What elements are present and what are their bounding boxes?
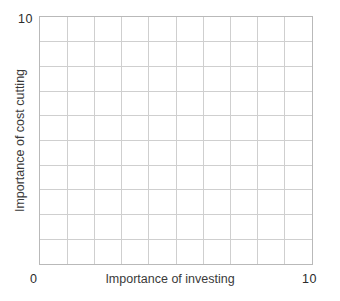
y-axis-title: Importance of cost cutting [14, 16, 30, 265]
plot-area[interactable] [39, 16, 313, 265]
chart-figure: 10 0 10 Importance of investing Importan… [0, 0, 340, 301]
grid-lines [40, 17, 312, 264]
x-axis-title: Importance of investing [0, 273, 340, 286]
